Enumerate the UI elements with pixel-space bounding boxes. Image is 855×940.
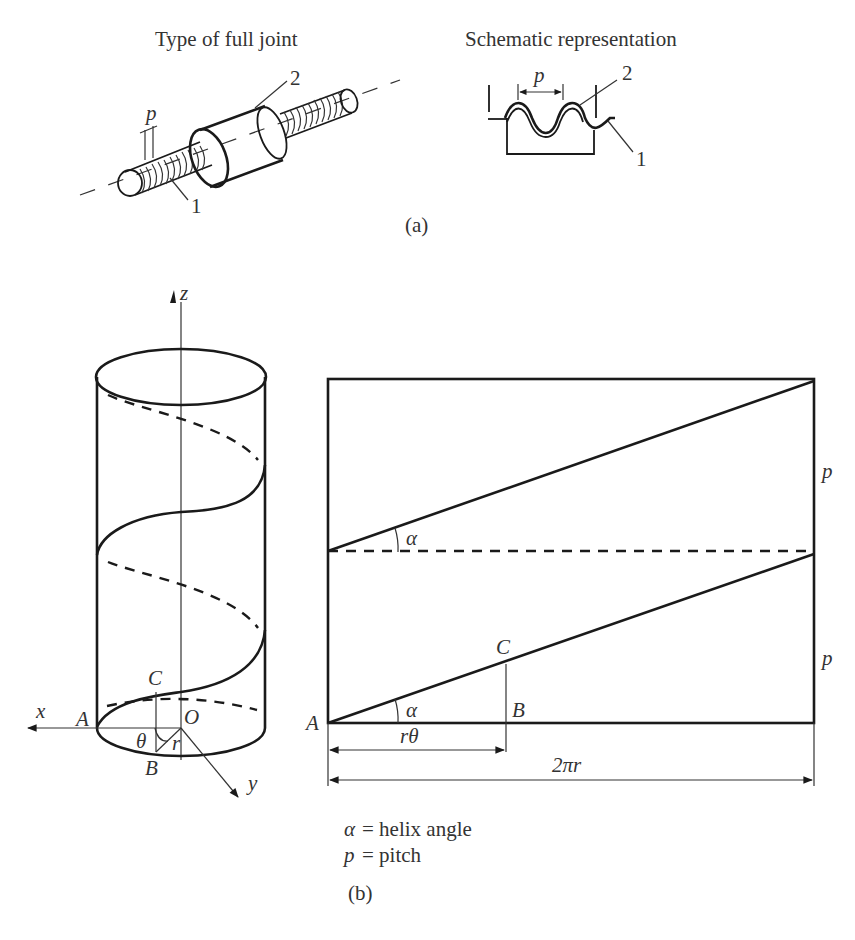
- alpha-lower-label: α: [406, 698, 418, 722]
- schematic-part-2-label: 2: [622, 61, 633, 85]
- panel-b: z x y A O: [28, 281, 833, 905]
- legend-pitch-text: = pitch: [362, 843, 422, 867]
- z-axis-label: z: [179, 281, 188, 305]
- circumference-dimension: 2πr: [552, 753, 582, 777]
- part-2-label: 2: [290, 66, 301, 90]
- pitch-label-a: p: [144, 101, 157, 125]
- point-C-dev: C: [496, 635, 511, 659]
- panel-a-caption: (a): [405, 213, 428, 237]
- pitch-upper-label: p: [820, 459, 833, 483]
- radius-label: r: [172, 731, 181, 755]
- r-theta-dimension: rθ: [400, 724, 419, 748]
- panel-a-right-title: Schematic representation: [465, 27, 677, 51]
- helix-development: α α C B A p p rθ 2πr: [304, 379, 833, 786]
- helix-cylinder: z x y A O: [28, 281, 266, 797]
- schematic-part-1-label: 1: [636, 147, 647, 171]
- helix-diagram-figure: Type of full joint Schematic representat…: [0, 0, 855, 940]
- legend-pitch-symbol: p: [342, 843, 355, 867]
- theta-label: θ: [136, 729, 146, 753]
- point-A-cylinder: A: [74, 707, 89, 731]
- legend-alpha-symbol: α: [344, 817, 356, 841]
- schematic-pitch-label: p: [532, 63, 545, 87]
- y-axis-label: y: [246, 771, 258, 795]
- screw-nut-illustration: p 1 2: [80, 66, 400, 218]
- point-A-dev: A: [304, 711, 319, 735]
- legend-alpha-text: = helix angle: [362, 817, 472, 841]
- x-axis-label: x: [35, 699, 46, 723]
- point-C-cylinder: C: [148, 666, 163, 690]
- panel-a-left-title: Type of full joint: [155, 27, 298, 51]
- part-1-label: 1: [191, 194, 202, 218]
- point-O: O: [184, 705, 199, 729]
- panel-a: Type of full joint Schematic representat…: [80, 27, 677, 237]
- schematic-illustration: p 2 1: [488, 61, 647, 171]
- panel-b-caption: (b): [348, 881, 373, 905]
- pitch-lower-label: p: [820, 646, 833, 670]
- alpha-upper-label: α: [406, 526, 418, 550]
- legend: α = helix angle p = pitch: [342, 817, 472, 867]
- point-B-dev: B: [512, 698, 525, 722]
- point-B-cylinder: B: [145, 756, 158, 780]
